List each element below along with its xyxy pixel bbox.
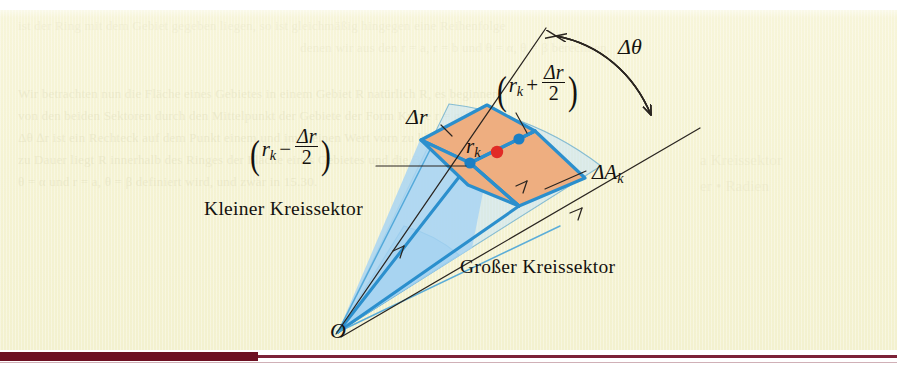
label-delta-r: Δr <box>406 104 427 130</box>
outer-radius-r: r <box>509 73 517 97</box>
r-k-text: r <box>466 134 474 158</box>
paren-close-icon-2: ) <box>321 142 331 167</box>
r-k-subscript: k <box>474 144 480 160</box>
label-delta-theta: Δθ <box>618 34 642 60</box>
figure-page: ist der Ring mit dem Gebiet gegeben lieg… <box>0 0 897 367</box>
paren-open-icon-2: ( <box>250 142 260 167</box>
delta-a-k-text: ΔA <box>592 160 617 184</box>
fraction-denominator-2: 2 <box>295 146 318 167</box>
outer-radius-operator: + <box>526 73 538 97</box>
delta-theta-text: Δθ <box>618 34 642 59</box>
inner-radius-subscript: k <box>270 147 276 163</box>
paren-open-icon: ( <box>497 78 507 103</box>
outer-radius-fraction: Δr2 <box>542 62 565 104</box>
polar-area-diagram <box>0 0 897 367</box>
inner-radius-r: r <box>262 137 270 161</box>
outer-radius-subscript: k <box>517 83 523 99</box>
fraction-numerator: Δr <box>542 62 565 82</box>
footer-hairline <box>0 362 897 363</box>
footer-thin-rule <box>258 355 897 358</box>
fraction-denominator: 2 <box>542 82 565 103</box>
delta-r-text: Δr <box>406 104 427 129</box>
label-small-sector: Kleiner Kreissektor <box>204 198 363 220</box>
delta-a-k-subscript: k <box>617 170 623 186</box>
label-inner-radius: (rk−Δr2) <box>248 126 333 168</box>
outer-midpoint-node <box>513 133 524 144</box>
label-delta-a-k: ΔAk <box>592 160 624 187</box>
inner-radius-fraction: Δr2 <box>295 126 318 168</box>
label-r-k: rk <box>466 134 481 161</box>
paren-close-icon: ) <box>568 78 578 103</box>
inner-radius-operator: − <box>279 137 291 161</box>
label-origin: O <box>330 318 346 344</box>
footer-dark-rule <box>0 352 258 361</box>
fraction-numerator-2: Δr <box>295 126 318 146</box>
label-outer-radius: (rk+Δr2) <box>495 62 580 104</box>
label-large-sector: Großer Kreissektor <box>460 256 615 278</box>
centroid-dot <box>491 146 503 158</box>
